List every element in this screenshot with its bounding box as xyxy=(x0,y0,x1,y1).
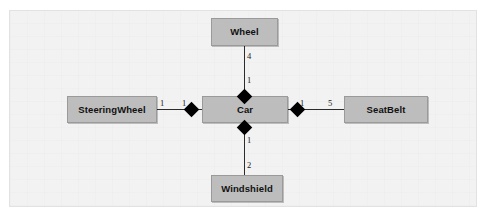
multiplicity-wheel-whole: 1 xyxy=(247,76,251,85)
class-box-wheel[interactable]: Wheel xyxy=(211,18,278,46)
multiplicity-seatbelt-whole: 1 xyxy=(300,99,304,108)
multiplicity-wheel-part: 4 xyxy=(247,52,251,61)
class-label-wheel: Wheel xyxy=(230,27,258,37)
multiplicity-seatbelt-part: 5 xyxy=(328,99,332,108)
class-label-seatbelt: SeatBelt xyxy=(367,105,406,115)
class-box-windshield[interactable]: Windshield xyxy=(211,175,283,202)
class-label-car: Car xyxy=(237,105,253,115)
diagram-canvas: Wheel SteeringWheel Car SeatBelt Windshi… xyxy=(0,0,489,217)
class-box-steeringwheel[interactable]: SteeringWheel xyxy=(67,96,157,123)
class-label-steeringwheel: SteeringWheel xyxy=(78,105,145,115)
class-box-seatbelt[interactable]: SeatBelt xyxy=(344,96,428,123)
multiplicity-steeringwheel-part: 1 xyxy=(160,99,164,108)
multiplicity-windshield-whole: 1 xyxy=(247,136,251,145)
class-label-windshield: Windshield xyxy=(221,184,273,194)
multiplicity-steeringwheel-whole: 1 xyxy=(182,99,186,108)
multiplicity-windshield-part: 2 xyxy=(247,161,251,170)
